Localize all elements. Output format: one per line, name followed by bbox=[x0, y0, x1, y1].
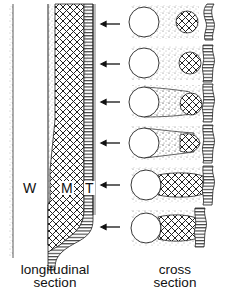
cross-section-2 bbox=[129, 45, 214, 82]
cross-section-4 bbox=[129, 125, 214, 163]
cross-sections bbox=[129, 4, 214, 247]
cross-section-5 bbox=[131, 166, 214, 205]
caption-cross: cross section bbox=[135, 263, 215, 289]
cross-section-1 bbox=[129, 4, 214, 40]
label-m: M bbox=[60, 181, 74, 195]
diagram-canvas bbox=[0, 0, 227, 303]
label-w: W bbox=[23, 181, 36, 195]
arrow-icon bbox=[101, 100, 120, 105]
caption-longitudinal-line2: section bbox=[0, 276, 110, 289]
label-t: T bbox=[84, 181, 95, 195]
arrow-icon bbox=[101, 183, 120, 188]
caption-longitudinal: longitudinal section bbox=[0, 263, 110, 289]
left-wall-strip bbox=[9, 4, 13, 258]
caption-cross-line2: section bbox=[135, 276, 215, 289]
arrow-icon bbox=[101, 141, 120, 146]
arrow-icon bbox=[101, 22, 120, 27]
arrows bbox=[101, 22, 120, 230]
arrow-icon bbox=[101, 225, 120, 230]
cross-section-6 bbox=[131, 208, 206, 247]
arrow-icon bbox=[101, 62, 120, 67]
cross-section-3 bbox=[129, 84, 214, 122]
longitudinal-section bbox=[9, 4, 95, 270]
